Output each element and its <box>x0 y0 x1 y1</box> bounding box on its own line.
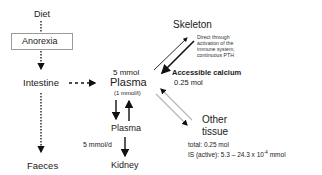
other-total: total: 0.25 mol <box>188 142 229 149</box>
node-intestine: Intestine <box>23 78 59 88</box>
node-plasma-top: Plasma <box>110 77 147 88</box>
accessible-calcium: Accessible calcium <box>172 69 241 77</box>
accessible-amount: 0.25 mol <box>174 79 203 87</box>
node-other-tissue-line2: tissue <box>202 127 228 137</box>
node-diet: Diet <box>34 10 50 19</box>
node-faeces: Faeces <box>27 161 58 171</box>
kidney-flow: 5 mmol/d <box>83 141 112 148</box>
skeleton-note: Direct through activation of the immune … <box>197 35 235 59</box>
node-kidney: Kidney <box>111 161 139 170</box>
node-anorexia-box: Anorexia <box>11 33 73 50</box>
arrow-other-plasma <box>161 89 192 120</box>
other-is-text: IS (active): 5.3 – 24.3 x 10 <box>188 151 264 158</box>
other-is-active: IS (active): 5.3 – 24.3 x 10-4 mmol <box>188 151 286 159</box>
other-is-unit: mmol <box>268 151 286 158</box>
node-plasma-bottom: Plasma <box>111 124 141 133</box>
node-anorexia: Anorexia <box>22 37 58 46</box>
node-skeleton: Skeleton <box>173 20 212 30</box>
arrow-plasma-other <box>156 94 187 125</box>
plasma-concentration: (1 mmol/l) <box>114 90 141 96</box>
node-other-tissue-line1: Other <box>202 115 227 125</box>
skeleton-note-line: continuous PTH <box>197 53 235 59</box>
